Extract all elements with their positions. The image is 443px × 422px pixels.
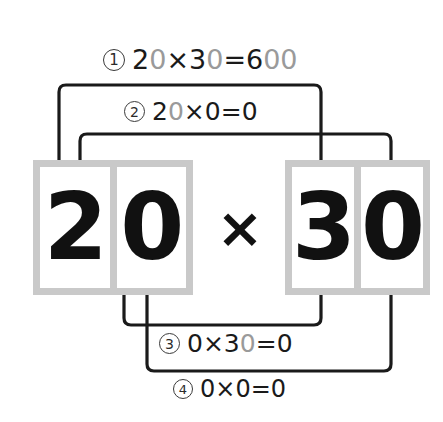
digit-cell-right-ones: 0 — [361, 167, 423, 288]
multiplication-sign: × — [196, 160, 284, 295]
left-operand-box: 2 0 — [33, 160, 193, 295]
equation-run: × — [215, 375, 235, 403]
equation-run: × — [203, 329, 224, 358]
right-operand-box: 3 0 — [285, 160, 430, 295]
equation-run: 0 — [187, 329, 203, 358]
equation-run: 0 — [206, 44, 223, 75]
equation-run: 3 — [224, 329, 240, 358]
equation-run: = — [223, 44, 246, 75]
step-equation-3: 0×30=0 — [187, 329, 293, 358]
equation-run: 0 — [200, 375, 215, 403]
equation-run: 0 — [149, 44, 166, 75]
step-equation-1: 20×30=600 — [132, 44, 298, 75]
equation-run: = — [256, 329, 277, 358]
equation-run: × — [166, 44, 189, 75]
equation-run: 0 — [205, 97, 221, 126]
equation-run: 2 — [152, 97, 168, 126]
step-equation-4: 0×0=0 — [200, 375, 286, 403]
digit-cell-left-tens: 2 — [40, 167, 110, 288]
diagram-canvas: 2 0 × 3 0 1 20×30=600 2 20×0=0 3 0×30=0 … — [0, 0, 443, 422]
step-label-3: 3 0×30=0 — [159, 329, 293, 358]
equation-run: 3 — [189, 44, 206, 75]
digit-left-tens: 2 — [40, 182, 110, 274]
step-label-1: 1 20×30=600 — [103, 44, 298, 75]
step-label-4: 4 0×0=0 — [173, 375, 286, 403]
step-equation-2: 20×0=0 — [152, 97, 258, 126]
step-marker-2: 2 — [124, 101, 145, 122]
equation-run: = — [251, 375, 271, 403]
digit-left-ones: 0 — [117, 182, 187, 274]
equation-run: 6 — [246, 44, 263, 75]
step-marker-1: 1 — [103, 49, 125, 71]
equation-run: 0 — [242, 97, 258, 126]
digit-right-tens: 3 — [292, 182, 354, 274]
equation-run: 00 — [263, 44, 297, 75]
equation-run: 0 — [271, 375, 286, 403]
digit-cell-left-ones: 0 — [117, 167, 187, 288]
equation-run: 0 — [277, 329, 293, 358]
step-marker-4: 4 — [173, 379, 193, 399]
equation-run: 0 — [235, 375, 250, 403]
digit-right-ones: 0 — [361, 182, 423, 274]
digit-cell-right-tens: 3 — [292, 167, 354, 288]
equation-run: 0 — [240, 329, 256, 358]
step-marker-3: 3 — [159, 333, 180, 354]
equation-run: 0 — [168, 97, 184, 126]
step-label-2: 2 20×0=0 — [124, 97, 258, 126]
equation-run: × — [184, 97, 205, 126]
equation-run: = — [221, 97, 242, 126]
equation-run: 2 — [132, 44, 149, 75]
